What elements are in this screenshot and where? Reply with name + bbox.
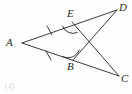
vertex-label-c: C [121,73,128,84]
geometry-diagram [0,0,132,94]
vertex-label-a: A [6,37,13,48]
vertex-label-e: E [67,8,74,19]
angle-arc-AEC [63,26,78,33]
vertex-label-b: B [67,61,74,72]
geometry-figure: A E D B C (4) [0,0,132,94]
figure-caption: (4) [5,83,14,91]
vertex-label-d: D [119,2,127,13]
angle-arc-ABD [63,50,79,58]
